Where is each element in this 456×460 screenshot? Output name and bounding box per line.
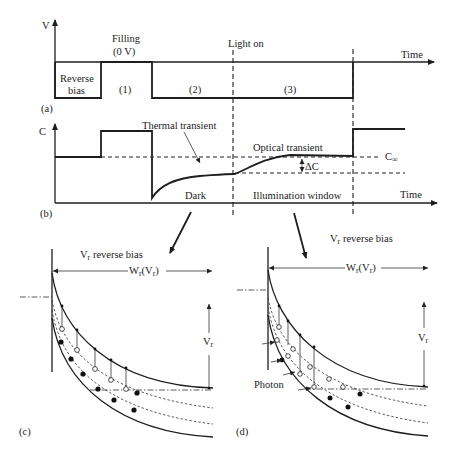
panel-c-title: Vr reverse bias [80,249,143,262]
light-on-label: Light on [228,38,265,49]
c-infinity-label: C∞ [385,151,398,164]
filled-traps-c [58,339,139,412]
illumination-window-label: Illumination window [253,190,342,201]
emission-transitions-c [61,305,128,389]
depletion-width-label-c: Wr(Vr) [129,265,159,278]
panel-c-tag: (c) [19,426,31,438]
trap-level-upper-d [268,298,428,406]
trap-level-lower-c [52,310,213,424]
reverse-bias-label: Reverse [60,73,94,84]
trap-level-upper-c [52,300,213,408]
conduction-band-d [268,270,428,387]
panel-a-tag: (a) [41,103,53,115]
panel-d-tag: (d) [236,426,249,438]
panel-a-voltage-timing: V Time Filling (0 V) Light on Reverse bi… [41,20,434,115]
voltage-waveform [55,62,353,98]
panel-c-band-diagram-dark: Vr reverse bias Wr(Vr) [19,249,216,438]
v-axis-label: V [42,20,50,31]
c-axis-label: C [39,126,46,137]
time-label-b: Time [400,189,422,200]
thermal-transient-pointer [184,132,200,163]
panel-b-tag: (b) [40,208,53,220]
valence-band-c [52,318,213,437]
emission-transitions-d [278,305,316,389]
reverse-bias-label-2: bias [68,85,85,96]
filling-voltage-label: (0 V) [113,46,136,58]
optical-transient-label: Optical transient [253,142,323,153]
filling-label: Filling [112,33,141,44]
dlos-timing-and-band-diagram: V Time Filling (0 V) Light on Reverse bi… [0,0,456,460]
panel-b-capacitance-transient: C Thermal transient Optical transient C∞… [39,120,437,220]
depletion-width-label-d: Wr(Vr) [346,262,376,275]
panel-d-title: Vr reverse bias [330,233,393,246]
delta-c-label: ΔC [305,161,319,172]
photon-label: Photon [254,379,285,390]
thermal-transient-label: Thermal transient [142,120,216,131]
panel-d-band-diagram-illuminated: Vr reverse bias Wr(Vr) [236,233,431,438]
phase-2-label: (2) [189,84,202,96]
arrow-to-panel-d [294,213,306,258]
time-label-a: Time [401,49,423,60]
valence-band-d [268,315,428,436]
arrow-to-panel-c [170,212,191,253]
dark-label: Dark [185,190,207,201]
phase-1-label: (1) [119,84,132,96]
phase-3-label: (3) [284,84,297,96]
